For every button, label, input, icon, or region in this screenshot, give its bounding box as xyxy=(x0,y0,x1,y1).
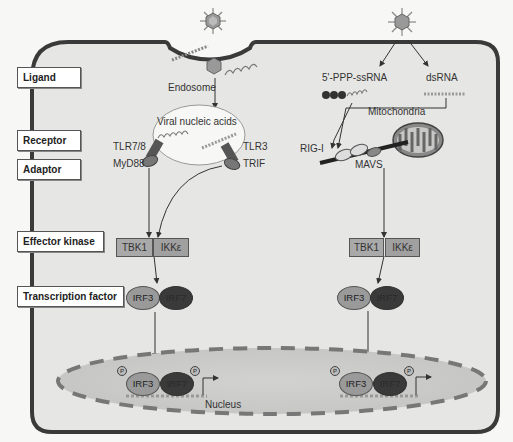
tlr3-label: TLR3 xyxy=(243,141,267,152)
mitochondria-icon xyxy=(393,123,443,157)
mitochondria-label: Mitochondria xyxy=(368,106,425,117)
virus-in-endosome-icon xyxy=(207,58,221,74)
viral-nucleic-acids-label: Viral nucleic acids xyxy=(157,116,237,127)
rig-i-label: RIG-I xyxy=(300,143,324,154)
category-label-ligand: Ligand xyxy=(17,67,81,88)
category-label-adaptor: Adaptor xyxy=(17,159,81,180)
virus-icon-cytosolic xyxy=(388,8,416,36)
nucleus-label: Nucleus xyxy=(205,399,241,410)
virus-icon-endosomal xyxy=(200,8,226,34)
myd88-label: MyD88 xyxy=(113,158,145,169)
ikke-box-right: IKKε xyxy=(385,238,420,257)
nucleus xyxy=(58,348,486,414)
category-label-receptor: Receptor xyxy=(17,130,81,151)
irf7-nuclear-left: IRF7 xyxy=(160,372,194,396)
irf3-right: IRF3 xyxy=(337,286,371,310)
dsrna-label: dsRNA xyxy=(426,72,458,83)
ikke-box-left: IKKε xyxy=(153,238,189,257)
irf7-nuclear-right: IRF7 xyxy=(373,372,407,396)
category-label-effector-kinase: Effector kinase xyxy=(17,231,104,252)
tbk1-box-right: TBK1 xyxy=(349,238,384,257)
tlr78-label: TLR7/8 xyxy=(113,141,146,152)
irf7-left: IRF7 xyxy=(159,286,193,310)
irf7-right: IRF7 xyxy=(370,286,404,310)
mavs-label: MAVS xyxy=(355,159,383,170)
phosphate-icon: P xyxy=(190,366,200,376)
category-label-transcription-factor: Transcription factor xyxy=(17,286,124,307)
tbk1-box-left: TBK1 xyxy=(116,238,153,257)
irf3-nuclear-left: IRF3 xyxy=(126,372,160,396)
phosphate-icon: P xyxy=(117,366,127,376)
phosphate-icon: P xyxy=(330,366,340,376)
irf3-left: IRF3 xyxy=(126,286,160,310)
irf3-nuclear-right: IRF3 xyxy=(339,372,373,396)
trif-label: TRIF xyxy=(243,158,265,169)
ppp-ssrna-label: 5'-PPP-ssRNA xyxy=(322,72,387,83)
phosphate-icon: P xyxy=(404,366,414,376)
endosome-label: Endosome xyxy=(168,82,216,93)
